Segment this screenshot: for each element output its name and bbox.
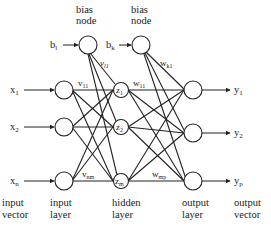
input-label-1: x1 [10,84,19,97]
hidden-output-edges [128,90,184,181]
weight-label-vnm: vnm [82,169,95,180]
caption-hidden-layer-2: layer [112,209,133,220]
caption-input-vector-1: input [2,197,24,208]
caption-output-vector-2: vector [234,209,261,220]
output-node-p [184,172,202,190]
output-bias-label: bk [106,39,115,52]
input-label-2: x2 [10,121,19,134]
output-arrows [202,90,230,181]
output-label-1: y1 [234,84,243,97]
caption-hidden-layer-1: hidden [112,197,141,208]
output-bias-title-2: node [131,15,152,26]
caption-output-vector-1: output [234,197,261,208]
weight-label-v11: v11 [78,78,88,89]
output-bias-node [132,36,150,54]
caption-output-layer-2: layer [182,209,203,220]
input-arrows [24,90,54,181]
output-bias-title-1: bias [131,4,148,15]
weight-label-wmp: wmp [152,169,166,180]
weight-label-wk1: wk1 [160,58,173,69]
weight-label-w11: w11 [133,78,145,89]
output-bias-edges [144,52,186,179]
weight-label-vl1: vl1 [100,58,109,69]
hidden-bias-title-1: bias [76,4,93,15]
input-label-n: xn [10,175,19,188]
input-node-1 [55,81,73,99]
hidden-bias-title-2: node [76,15,97,26]
input-node-2 [55,118,73,136]
output-label-p: yp [234,175,243,188]
input-node-n [55,172,73,190]
neural-network-diagram: bias node bias node bl bk x1 x2 xn z1 z2… [0,0,271,226]
caption-input-layer-1: input [50,197,72,208]
output-label-2: y2 [234,127,243,140]
caption-input-layer-2: layer [50,209,71,220]
output-node-2 [184,124,202,142]
input-hidden-edges [72,90,113,181]
hidden-bias-node [79,36,97,54]
hidden-bias-label: bl [50,39,57,52]
caption-input-vector-2: vector [2,209,29,220]
caption-output-layer-1: output [182,197,209,208]
output-node-1 [184,81,202,99]
